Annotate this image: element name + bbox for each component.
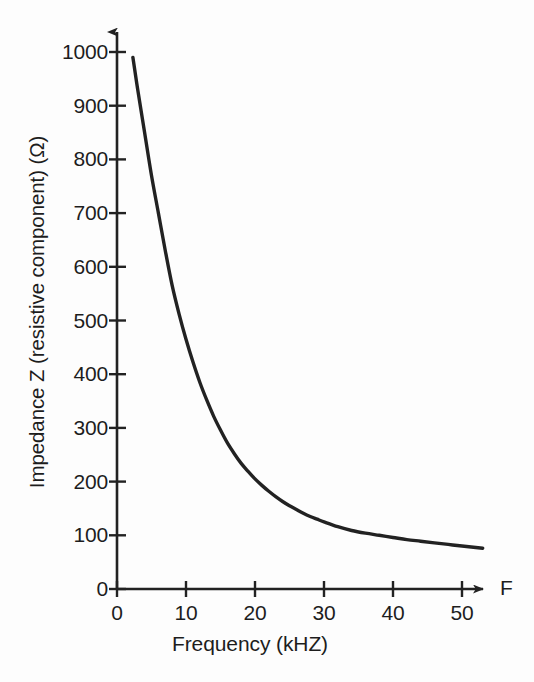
impedance-curve	[133, 57, 483, 548]
x-axis-variable-label: F	[500, 576, 513, 600]
xtick-label-20: 20	[230, 601, 280, 625]
ytick-label-300: 300	[48, 416, 108, 440]
ytick-label-0: 0	[48, 577, 108, 601]
xtick-label-30: 30	[299, 601, 349, 625]
ytick-label-1000: 1000	[48, 40, 108, 64]
x-axis-title: Frequency (kHZ)	[0, 632, 500, 656]
ytick-label-200: 200	[48, 470, 108, 494]
ytick-label-100: 100	[48, 523, 108, 547]
y-axis-title: Impedance Z (resistive component) (Ω)	[25, 62, 49, 562]
xtick-label-50: 50	[437, 601, 487, 625]
xtick-label-0: 0	[92, 601, 142, 625]
xtick-label-10: 10	[161, 601, 211, 625]
ytick-label-600: 600	[48, 255, 108, 279]
ytick-label-800: 800	[48, 147, 108, 171]
ytick-label-500: 500	[48, 309, 108, 333]
xtick-label-40: 40	[368, 601, 418, 625]
ytick-label-900: 900	[48, 94, 108, 118]
chart-figure: 1000 900 800 700 600 500 400 300 200 100…	[0, 0, 534, 682]
ytick-label-700: 700	[48, 201, 108, 225]
ytick-label-400: 400	[48, 362, 108, 386]
